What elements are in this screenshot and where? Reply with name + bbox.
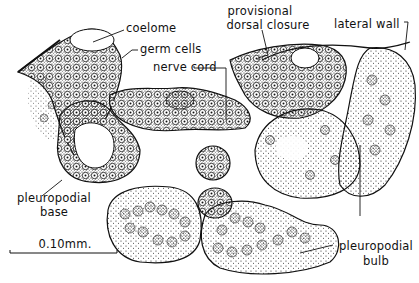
label-coelome: coelome	[126, 22, 176, 34]
label-pleuropodial-bulb-2: bulb	[334, 255, 418, 267]
label-lateral-wall: lateral wall	[334, 18, 400, 30]
middle-lobe	[255, 109, 360, 198]
label-pleuropodial-base-1: pleuropodial	[12, 192, 96, 204]
coelome-cavity	[70, 29, 114, 51]
nerve-cord	[110, 88, 251, 131]
label-pleuropodial-base-2: base	[12, 206, 96, 218]
label-germ-cells: germ cells	[140, 43, 202, 55]
label-nerve-cord: nerve cord	[153, 61, 217, 73]
label-provisional-dorsal-closure-1: provisional	[220, 5, 300, 17]
scale-bar-label: 0.10mm.	[20, 238, 110, 250]
label-pleuropodial-bulb-1: pleuropodial	[334, 240, 418, 252]
label-provisional-dorsal-closure-2: dorsal closure	[222, 19, 314, 31]
